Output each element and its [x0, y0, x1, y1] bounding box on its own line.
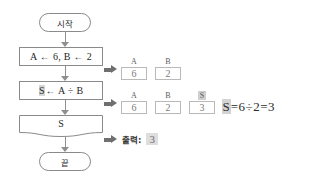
- var-cell-b-2: B 2: [155, 92, 181, 114]
- flowchart-diagram: 시작 A ← 6, B ← 2 S← A ÷ B S 끝: [0, 0, 317, 176]
- var-cell-s-2-name-text: S: [198, 91, 205, 100]
- arrow-tip: [111, 99, 117, 107]
- var-cell-a-1-value: 6: [121, 67, 147, 80]
- arrow-tail: [104, 68, 111, 72]
- arrow-right-icon-output: [104, 135, 117, 144]
- equation-annotation: S=6÷2=3: [222, 99, 275, 115]
- flow-node-output: S: [19, 115, 103, 137]
- connector-shaft: [65, 32, 66, 42]
- arrow-tip: [111, 65, 117, 73]
- flow-node-init: A ← 6, B ← 2: [19, 47, 103, 66]
- arrow-tail: [104, 102, 111, 106]
- var-cell-b-2-name: B: [155, 92, 181, 100]
- var-cell-s-2-name: S: [189, 92, 215, 100]
- equation-rest: =6÷2=3: [231, 99, 275, 114]
- flow-node-start: 시작: [39, 13, 91, 32]
- arrow-tip: [111, 135, 117, 143]
- flow-node-compute-highlight: S: [39, 85, 46, 96]
- flow-node-end: 끝: [39, 152, 91, 171]
- var-cell-a-2-value: 6: [121, 101, 147, 114]
- var-cell-a-1: A 6: [121, 58, 147, 80]
- var-cell-a-1-name: A: [121, 58, 147, 66]
- var-cell-a-2-name: A: [121, 92, 147, 100]
- connector-start-to-init: [61, 32, 70, 47]
- flow-node-compute-rest: ← A ÷ B: [45, 85, 83, 96]
- flow-node-start-label: 시작: [57, 17, 73, 29]
- flow-node-end-label: 끝: [61, 156, 69, 168]
- flow-node-compute: S← A ÷ B: [19, 81, 103, 100]
- connector-init-to-compute: [61, 66, 70, 81]
- var-cell-b-1-value: 2: [155, 67, 181, 80]
- output-annotation-value: 3: [146, 133, 158, 145]
- arrow-right-icon-trace-1: [104, 65, 117, 74]
- connector-shaft: [65, 100, 66, 110]
- output-annotation: 출력: 3: [122, 133, 158, 145]
- connector-shaft: [65, 137, 66, 147]
- flow-node-init-label: A ← 6, B ← 2: [30, 51, 92, 62]
- connector-shaft: [65, 66, 66, 76]
- var-cell-b-1: B 2: [155, 58, 181, 80]
- var-cell-b-2-value: 2: [155, 101, 181, 114]
- var-cell-s-2-value: 3: [189, 101, 215, 114]
- flow-node-output-label: S: [19, 118, 103, 129]
- arrow-right-icon-trace-2: [104, 99, 117, 108]
- var-cell-b-1-name: B: [155, 58, 181, 66]
- equation-lhs: S: [222, 99, 231, 114]
- arrow-tail: [104, 138, 111, 142]
- connector-compute-to-output: [61, 100, 70, 115]
- var-cell-s-2: S 3: [189, 92, 215, 114]
- connector-output-to-end: [61, 137, 70, 152]
- output-annotation-label: 출력:: [122, 133, 141, 145]
- var-cell-a-2: A 6: [121, 92, 147, 114]
